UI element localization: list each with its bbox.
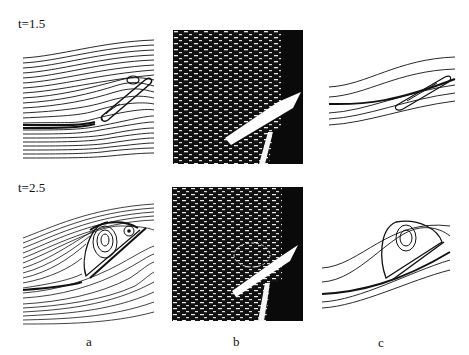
panel-b-t1 <box>173 30 303 164</box>
time-label-row2: t=2.5 <box>18 180 45 196</box>
panel-b-t2 <box>172 187 303 321</box>
column-label-c: c <box>378 335 384 351</box>
panel-a-t2 <box>20 198 156 326</box>
panel-c-t1 <box>327 55 457 127</box>
panel-c-t2 <box>320 212 455 312</box>
column-label-b: b <box>233 334 240 350</box>
panel-a-t1 <box>20 38 156 163</box>
column-label-a: a <box>86 334 92 350</box>
time-label-row1: t=1.5 <box>18 16 45 32</box>
